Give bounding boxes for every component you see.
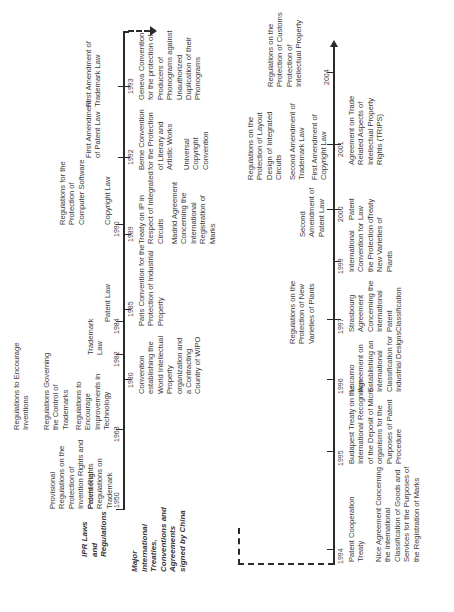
- treaty-1996-locarno: Locarno Agreement on Establishing an Int…: [347, 326, 403, 392]
- year-1997: 1997: [337, 318, 345, 334]
- year-1990: 1990: [113, 221, 121, 237]
- ipr-1982-trademark-law: Trademark Law: [86, 323, 105, 355]
- connector-dashed-horizontal: [238, 528, 240, 565]
- treaty-1985-paris: Paris Convention for the Protection of I…: [137, 244, 165, 326]
- year-2004: 2004: [323, 69, 331, 85]
- year-1989: 1989: [127, 226, 135, 242]
- treaty-1993-geneva: Geneva Convention for the protection of …: [137, 22, 203, 100]
- ipr-1993-trademark-amendment: First Amendment of Trademark Law: [84, 37, 103, 107]
- timeline-axis-bottom: [333, 45, 335, 565]
- year-2001: 2001: [337, 141, 345, 157]
- ipr-1990-copyright-law: Copyright Law: [103, 159, 112, 225]
- tick-1950: [116, 509, 124, 510]
- ipr-1963-technology: Regulations to Encourage Improvements in…: [74, 365, 112, 430]
- ipr-1984-patent-law: Patent Law: [103, 272, 112, 322]
- ipr-2001-layout-design: Regulations on the Protection of Layout …: [246, 100, 284, 180]
- ipr-timeline-diagram: IPR Laws and Regulations Major Internati…: [0, 0, 454, 612]
- treaty-1992-berne: Berne Convention for the Protection of L…: [137, 104, 175, 170]
- treaty-1989-madrid: Madrid Agreement Concerning the Internat…: [170, 178, 217, 244]
- timeline-axis-top: [123, 32, 125, 510]
- treaty-1997-strasbourg: Strasbourg Agreement Concerning the Inte…: [347, 270, 403, 332]
- year-2000: 2000: [337, 206, 345, 222]
- year-1985: 1985: [127, 301, 135, 317]
- year-1994: 1994: [337, 548, 345, 564]
- treaty-1999-upov: International Convention for the Protect…: [347, 214, 394, 272]
- ipr-1963-trademarks-control: Regulations Governing the Control of Tra…: [42, 352, 70, 430]
- treaty-1980-wipo: Convention establishing the World Intell…: [137, 332, 203, 394]
- arrow-right-icon: [330, 40, 338, 47]
- treaty-2001-trips: Agreement on Trade Related Aspects of In…: [347, 85, 385, 165]
- treaty-1994-pct: Patent Cooperation Treaty: [347, 482, 366, 562]
- year-1980: 1980: [127, 372, 135, 388]
- year-1984: 1984: [113, 318, 121, 334]
- treaty-1994-nice: Nice Agreement Concerning the Internatio…: [374, 464, 421, 562]
- treaty-1992-ucc: Universal Copyright Convention: [182, 104, 210, 170]
- year-1982: 1982: [113, 351, 121, 367]
- ipr-2001-copyright-amendment: First Amendment of Copyright Law: [310, 98, 329, 180]
- year-1995: 1995: [337, 450, 345, 466]
- ipr-1950-trademark: Provisional Regulations on Trademark: [86, 437, 114, 509]
- treaty-2000-plt: Patent Law Treaty: [347, 184, 375, 220]
- year-1996: 1996: [337, 378, 345, 394]
- ipr-1990-software: Regulations for the Protection of Comput…: [58, 159, 86, 225]
- tick-1995: [327, 451, 334, 452]
- ipr-1997-plant-varieties: Regulations on the Protection of New Var…: [288, 274, 316, 344]
- ipr-2004-customs: Regulations on the Protection of Customs…: [266, 7, 304, 87]
- header-ipr-laws: IPR Laws and Regulations: [80, 507, 109, 557]
- ipr-2001-trademark-amendment: Second Amendment of Trademark Law: [288, 98, 307, 180]
- header-treaties: Major International Treaties, Convention…: [130, 507, 188, 572]
- tick-1994: [327, 549, 334, 550]
- connector-dashed-vertical: [238, 563, 334, 565]
- tick-1996: [327, 379, 334, 380]
- treaty-1989-integrated-circuits: Treaty on IP in Respect of Integrated Ci…: [137, 170, 165, 244]
- year-1992: 1992: [127, 149, 135, 165]
- year-1993: 1993: [127, 78, 135, 94]
- year-1999: 1999: [337, 258, 345, 274]
- ipr-1963-encourage-inventions: Regulations to Encourage Inventions: [12, 340, 31, 430]
- ipr-2000-patent-amendment: Second Amendment of Patent Law: [298, 185, 326, 237]
